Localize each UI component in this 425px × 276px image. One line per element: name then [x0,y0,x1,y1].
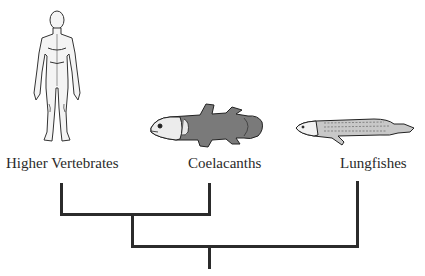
lungfish-icon [294,114,418,148]
node-bar-root [131,245,359,248]
branch-higher-vertebrates [60,183,63,216]
cladogram: Higher Vertebrates Coelacanths Lungfishe… [0,0,425,276]
coelacanth-fish-icon [148,102,266,150]
taxon-label-lungfishes: Lungfishes [340,155,407,172]
branch-inner-node [131,213,134,248]
branch-coelacanths [208,183,211,216]
root-stem [208,245,211,269]
human-figure-icon [28,8,86,148]
branch-lungfishes [356,181,359,248]
taxon-label-higher-vertebrates: Higher Vertebrates [6,155,119,172]
taxon-label-coelacanths: Coelacanths [188,155,261,172]
node-bar-vertebrates-coelacanths [60,213,211,216]
